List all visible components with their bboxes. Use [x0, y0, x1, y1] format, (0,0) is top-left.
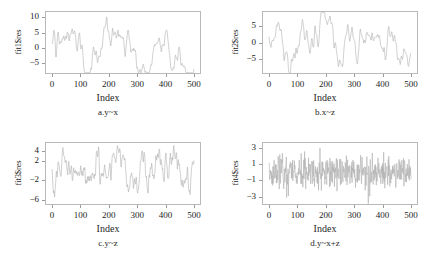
- x-tick-mark-d-0: [269, 205, 270, 208]
- x-tick-label-b-3: 300: [340, 79, 368, 89]
- x-tick-mark-a-1: [80, 74, 81, 77]
- x-tick-label-c-5: 500: [180, 210, 208, 220]
- panel-caption-d: d.y~x+z: [217, 238, 433, 248]
- panel-caption-b: b.x~z: [217, 107, 433, 117]
- y-tick-mark-d-3: [259, 197, 262, 198]
- x-tick-mark-c-4: [166, 205, 167, 208]
- x-tick-mark-c-1: [80, 205, 81, 208]
- x-tick-label-d-4: 400: [369, 210, 397, 220]
- x-tick-label-b-0: 0: [255, 79, 283, 89]
- residual-plot-figure: fit1$res1050−50100200300400500Indexa.y~x…: [0, 0, 433, 263]
- x-axis-label-c: Index: [0, 223, 216, 234]
- x-axis-label-a: Index: [0, 92, 216, 103]
- panel-c: fit3$res42−2−60100200300400500Indexc.y~z: [0, 131, 216, 262]
- y-tick-label-b-1: 0: [236, 37, 256, 47]
- y-tick-label-a-0: 10: [19, 11, 39, 21]
- panel-caption-c: c.y~z: [0, 238, 216, 248]
- y-tick-mark-b-1: [259, 43, 262, 44]
- x-tick-label-a-4: 400: [152, 79, 180, 89]
- x-tick-mark-a-0: [52, 74, 53, 77]
- series-line-d: [263, 143, 417, 204]
- panel-b: fit2$res50−50100200300400500Indexb.x~z: [217, 0, 433, 131]
- x-tick-mark-a-5: [194, 74, 195, 77]
- x-tick-mark-a-4: [166, 74, 167, 77]
- series-line-c: [46, 143, 200, 204]
- x-tick-label-d-3: 300: [340, 210, 368, 220]
- x-tick-label-a-0: 0: [38, 79, 66, 89]
- x-tick-label-c-1: 100: [66, 210, 94, 220]
- x-tick-label-a-5: 500: [180, 79, 208, 89]
- x-tick-label-b-1: 100: [283, 79, 311, 89]
- y-tick-label-c-0: 4: [19, 145, 39, 155]
- y-tick-label-b-2: −5: [236, 53, 256, 63]
- x-tick-mark-b-0: [269, 74, 270, 77]
- x-tick-mark-a-3: [137, 74, 138, 77]
- x-tick-mark-c-0: [52, 205, 53, 208]
- x-axis-label-d: Index: [217, 223, 433, 234]
- y-tick-label-c-3: −6: [19, 194, 39, 204]
- y-tick-label-a-1: 5: [19, 27, 39, 37]
- x-tick-label-d-1: 100: [283, 210, 311, 220]
- x-tick-label-c-4: 400: [152, 210, 180, 220]
- y-tick-label-d-3: −3: [236, 191, 256, 201]
- y-tick-mark-d-2: [259, 180, 262, 181]
- series-line-a: [46, 12, 200, 73]
- x-tick-label-a-1: 100: [66, 79, 94, 89]
- x-tick-label-d-2: 200: [312, 210, 340, 220]
- plot-area-d: [262, 142, 418, 205]
- x-tick-mark-d-4: [383, 205, 384, 208]
- x-tick-label-b-5: 500: [397, 79, 425, 89]
- y-tick-mark-b-0: [259, 26, 262, 27]
- y-tick-mark-a-2: [42, 48, 45, 49]
- x-tick-mark-a-2: [109, 74, 110, 77]
- x-tick-label-d-0: 0: [255, 210, 283, 220]
- x-tick-label-c-0: 0: [38, 210, 66, 220]
- x-tick-label-c-3: 300: [123, 210, 151, 220]
- y-tick-label-a-2: 0: [19, 42, 39, 52]
- plot-area-c: [45, 142, 201, 205]
- x-tick-label-b-2: 200: [312, 79, 340, 89]
- x-tick-mark-b-4: [383, 74, 384, 77]
- x-tick-mark-b-3: [354, 74, 355, 77]
- y-tick-mark-c-2: [42, 180, 45, 181]
- y-tick-label-d-0: 3: [236, 142, 256, 152]
- x-tick-label-c-2: 200: [95, 210, 123, 220]
- y-tick-mark-c-3: [42, 200, 45, 201]
- y-tick-mark-c-0: [42, 151, 45, 152]
- x-tick-label-d-5: 500: [397, 210, 425, 220]
- x-tick-mark-c-2: [109, 205, 110, 208]
- panel-caption-a: a.y~x: [0, 107, 216, 117]
- x-tick-mark-d-5: [411, 205, 412, 208]
- x-tick-mark-d-1: [297, 205, 298, 208]
- y-tick-label-c-2: −2: [19, 174, 39, 184]
- y-tick-mark-b-2: [259, 59, 262, 60]
- x-tick-mark-d-2: [326, 205, 327, 208]
- x-tick-label-a-2: 200: [95, 79, 123, 89]
- y-tick-label-c-1: 2: [19, 155, 39, 165]
- x-tick-mark-d-3: [354, 205, 355, 208]
- y-tick-label-a-3: −5: [19, 57, 39, 67]
- x-axis-label-b: Index: [217, 92, 433, 103]
- y-tick-label-d-2: −1: [236, 174, 256, 184]
- x-tick-mark-b-5: [411, 74, 412, 77]
- plot-area-a: [45, 11, 201, 74]
- y-tick-label-d-1: 1: [236, 158, 256, 168]
- x-tick-mark-b-2: [326, 74, 327, 77]
- y-tick-mark-d-0: [259, 148, 262, 149]
- x-tick-mark-b-1: [297, 74, 298, 77]
- y-tick-label-b-0: 5: [236, 20, 256, 30]
- plot-area-b: [262, 11, 418, 74]
- y-tick-mark-d-1: [259, 164, 262, 165]
- y-tick-mark-c-1: [42, 161, 45, 162]
- x-tick-mark-c-3: [137, 205, 138, 208]
- panel-d: fit4$res31−1−30100200300400500Indexd.y~x…: [217, 131, 433, 262]
- panel-a: fit1$res1050−50100200300400500Indexa.y~x: [0, 0, 216, 131]
- series-line-b: [263, 12, 417, 73]
- y-tick-mark-a-3: [42, 63, 45, 64]
- x-tick-label-a-3: 300: [123, 79, 151, 89]
- y-tick-mark-a-1: [42, 33, 45, 34]
- y-tick-mark-a-0: [42, 17, 45, 18]
- x-tick-mark-c-5: [194, 205, 195, 208]
- x-tick-label-b-4: 400: [369, 79, 397, 89]
